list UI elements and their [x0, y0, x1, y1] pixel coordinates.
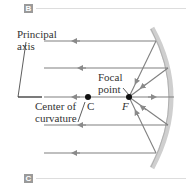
center-of-curvature-label-1: Center of	[35, 101, 76, 112]
principal-axis-label-1: Principal	[17, 29, 57, 40]
center-of-curvature-label-2: curvature	[35, 113, 77, 124]
divider-bottom	[36, 178, 186, 179]
f-letter: F	[122, 101, 129, 112]
c-letter: C	[87, 101, 94, 112]
mirror	[152, 28, 171, 168]
panel-label-c: C	[24, 174, 33, 183]
focal-point-label-2: point	[98, 84, 121, 95]
focal-point-label-1: Focal	[98, 72, 122, 83]
principal-axis-label-2: axis	[17, 41, 35, 52]
